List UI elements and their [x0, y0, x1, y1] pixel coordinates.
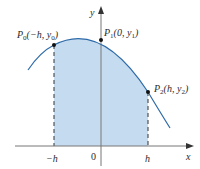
point-p1	[99, 38, 103, 42]
x-axis-label: x	[185, 151, 191, 162]
simpson-parabola-diagram: P0(−h, y0) P1(0, y1) P2(h, y2) y x −h 0 …	[0, 0, 200, 169]
tick-label-zero: 0	[91, 151, 96, 162]
label-p0: P0(−h, y0)	[16, 29, 59, 42]
tick-label-neg-h: −h	[46, 153, 58, 164]
y-axis-label: y	[89, 7, 95, 18]
label-p2: P2(h, y2)	[153, 83, 189, 96]
point-p0	[52, 43, 56, 47]
point-p2	[146, 90, 150, 94]
x-axis-arrow-icon	[186, 143, 194, 149]
label-p1: P1(0, y1)	[103, 27, 139, 40]
y-axis-arrow-icon	[98, 6, 104, 14]
tick-label-h: h	[145, 153, 150, 164]
